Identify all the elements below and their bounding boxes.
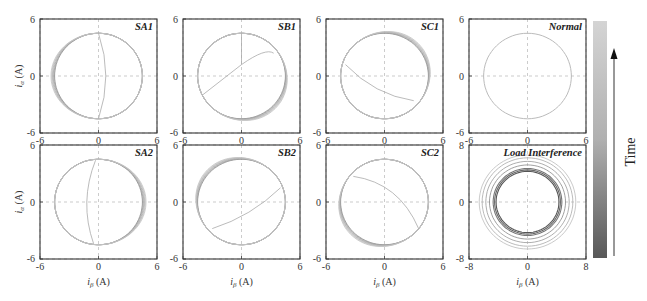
y-tick-label: 6 — [173, 140, 178, 151]
x-tick-label: -6 — [36, 135, 44, 146]
transient-trajectory — [346, 65, 414, 101]
y-tick-label: 0 — [30, 71, 35, 82]
transient-trajectory — [203, 33, 274, 95]
x-axis-label: iβ (A) — [87, 276, 110, 289]
x-tick-label: -6 — [36, 261, 44, 272]
panel-title: SB2 — [278, 147, 297, 158]
x-tick-label: 6 — [441, 261, 446, 272]
panel-sa2: SA260-6-606iα (A)iβ (A) — [13, 140, 160, 289]
panel-sc1: SC160-6-606 — [313, 14, 446, 146]
x-tick-label: 6 — [441, 135, 446, 146]
y-tick-label: -6 — [170, 127, 178, 138]
x-tick-label: -6 — [322, 135, 330, 146]
x-tick-label: 8 — [584, 261, 589, 272]
x-tick-label: 0 — [382, 135, 387, 146]
panel-title: SA2 — [135, 147, 154, 158]
y-axis-label: iα (A) — [13, 65, 26, 88]
y-tick-label: 0 — [316, 197, 321, 208]
y-tick-label: 6 — [459, 14, 464, 25]
y-tick-label: 6 — [173, 14, 178, 25]
x-tick-label: 0 — [525, 261, 530, 272]
x-tick-label: 6 — [584, 135, 589, 146]
y-tick-label: 8 — [459, 140, 464, 151]
colorbar-label: Time — [623, 137, 638, 166]
y-tick-label: 0 — [30, 197, 35, 208]
y-tick-label: -6 — [313, 253, 321, 264]
trajectory — [54, 33, 142, 118]
x-tick-label: 0 — [239, 135, 244, 146]
x-tick-label: -6 — [179, 261, 187, 272]
x-tick-label: 0 — [239, 261, 244, 272]
panel-sb2: SB260-6-606iβ (A) — [170, 140, 303, 289]
y-tick-label: 0 — [316, 71, 321, 82]
y-tick-label: 0 — [173, 71, 178, 82]
transient-trajectory — [353, 176, 418, 228]
x-tick-label: 6 — [155, 135, 160, 146]
y-axis-label: iα (A) — [13, 191, 26, 214]
y-tick-label: 6 — [316, 14, 321, 25]
colorbar — [593, 21, 607, 258]
y-tick-label: -6 — [27, 253, 35, 264]
x-tick-label: 0 — [96, 261, 101, 272]
panel-sc2: SC260-6-606iβ (A) — [313, 140, 446, 289]
panel-title: Load Interference — [503, 147, 583, 158]
y-tick-label: 6 — [30, 140, 35, 151]
time-arrow-icon — [611, 48, 618, 256]
panel-title: SB1 — [278, 21, 296, 32]
panel-normal: Normal60-6-606 — [456, 14, 589, 146]
x-tick-label: -8 — [465, 261, 473, 272]
trajectory — [55, 159, 144, 244]
y-tick-label: -6 — [27, 127, 35, 138]
panel-title: Normal — [548, 21, 582, 32]
panel-title: SC1 — [421, 21, 439, 32]
x-tick-label: 0 — [525, 135, 530, 146]
y-tick-label: 6 — [316, 140, 321, 151]
panel-title: SA1 — [135, 21, 153, 32]
x-tick-label: 6 — [298, 261, 303, 272]
x-tick-label: -6 — [465, 135, 473, 146]
y-tick-label: -6 — [456, 127, 464, 138]
x-tick-label: 0 — [96, 135, 101, 146]
y-tick-label: -6 — [170, 253, 178, 264]
x-tick-label: -6 — [179, 135, 187, 146]
y-tick-label: -6 — [313, 127, 321, 138]
x-tick-label: 6 — [298, 135, 303, 146]
y-tick-label: 0 — [459, 197, 464, 208]
y-tick-label: 0 — [173, 197, 178, 208]
x-tick-label: 0 — [382, 261, 387, 272]
x-axis-label: iβ (A) — [373, 276, 396, 289]
panel-title: SC2 — [421, 147, 440, 158]
panel-load-interference: Load Interference80-8-808iβ (A) — [456, 140, 589, 289]
figure-canvas: SA160-6-606iα (A)SB160-6-606SC160-6-606N… — [0, 0, 647, 301]
panel-sa1: SA160-6-606iα (A) — [13, 14, 160, 146]
x-axis-label: iβ (A) — [230, 276, 253, 289]
panel-sb1: SB160-6-606 — [170, 14, 303, 146]
x-tick-label: -6 — [322, 261, 330, 272]
y-tick-label: 6 — [30, 14, 35, 25]
y-tick-label: -8 — [456, 253, 464, 264]
x-tick-label: 6 — [155, 261, 160, 272]
x-axis-label: iβ (A) — [516, 276, 539, 289]
transient-trajectory — [212, 188, 280, 229]
y-tick-label: 0 — [459, 71, 464, 82]
